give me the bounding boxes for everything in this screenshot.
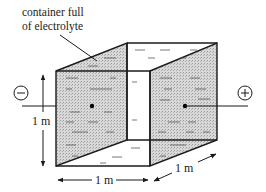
label-leader-line bbox=[60, 35, 97, 61]
positive-terminal-icon bbox=[238, 86, 252, 100]
depth-dimension-arrow-upper bbox=[198, 154, 216, 162]
container-label-line2: of electrolyte bbox=[22, 20, 83, 33]
height-label: 1 m bbox=[32, 114, 51, 128]
left-contact-dot bbox=[90, 104, 94, 108]
negative-terminal-icon bbox=[14, 86, 28, 100]
width-label: 1 m bbox=[95, 173, 114, 187]
cube-diagram: container full of electrolyte 1 m 1 m 1 … bbox=[0, 0, 266, 192]
depth-dimension-arrow-lower bbox=[154, 173, 172, 181]
container-label-line1: container full bbox=[22, 6, 84, 18]
diagram-canvas: container full of electrolyte 1 m 1 m 1 … bbox=[0, 0, 266, 192]
depth-label: 1 m bbox=[175, 161, 194, 175]
